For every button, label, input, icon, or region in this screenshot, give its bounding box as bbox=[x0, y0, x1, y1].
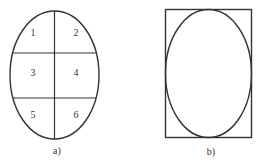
region-label-5: 5 bbox=[31, 109, 36, 120]
region-label-1: 1 bbox=[31, 27, 36, 38]
region-label-4: 4 bbox=[74, 67, 79, 78]
figure-b: b) bbox=[166, 10, 252, 159]
region-label-2: 2 bbox=[74, 27, 79, 38]
diagram-canvas: 1 2 3 4 5 6 a) b) bbox=[0, 0, 257, 166]
caption-a: a) bbox=[53, 145, 61, 157]
caption-b: b) bbox=[207, 146, 215, 158]
region-label-3: 3 bbox=[31, 67, 36, 78]
figure-a: 1 2 3 4 5 6 a) bbox=[5, 8, 104, 157]
region-label-6: 6 bbox=[74, 109, 79, 120]
ellipse-b bbox=[166, 10, 252, 138]
